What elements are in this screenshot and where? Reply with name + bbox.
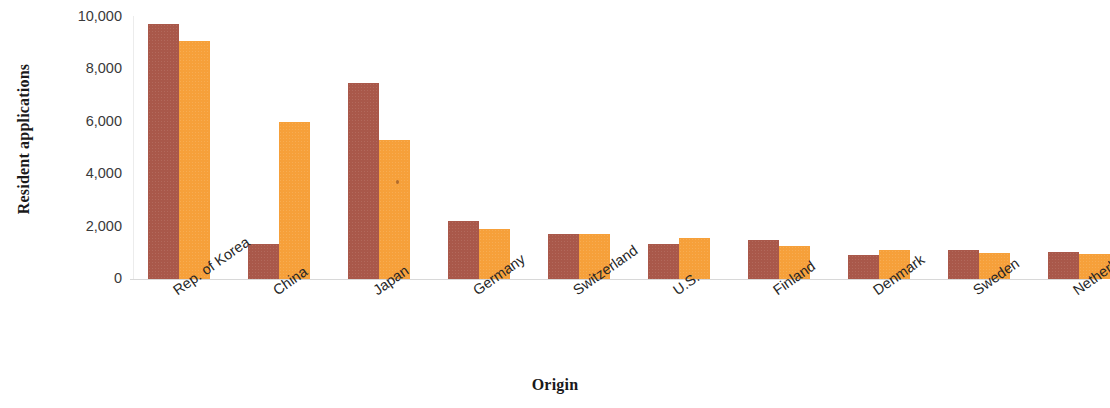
bar — [279, 122, 310, 279]
bar — [748, 240, 779, 279]
bar-chart: Resident applications 02,0004,0006,0008,… — [0, 0, 1110, 408]
bar — [179, 41, 210, 279]
x-axis-tick-label: Denmark — [870, 285, 879, 298]
bar — [379, 140, 410, 279]
bar — [648, 244, 679, 279]
scan-artifact-speck — [396, 180, 399, 184]
x-axis-tick-label: Finland — [770, 285, 779, 298]
x-axis-title: Origin — [0, 376, 1110, 394]
bar — [248, 244, 279, 279]
bar — [148, 24, 179, 279]
plot-area: 02,0004,0006,0008,00010,000 Rep. of Kore… — [0, 0, 1110, 290]
bar — [1048, 252, 1079, 280]
x-axis-tick-label: Rep. of Korea — [170, 285, 179, 298]
bar — [348, 83, 379, 280]
x-axis-tick-label: U.S. — [670, 285, 679, 298]
x-axis-tick-label: Germany — [470, 285, 479, 298]
x-axis-tick-label: Sweden — [970, 285, 979, 298]
bars-layer — [0, 0, 1110, 279]
bar — [448, 221, 479, 279]
x-axis-tick-labels: Rep. of KoreaChinaJapanGermanySwitzerlan… — [0, 279, 1110, 379]
bar — [548, 234, 579, 279]
x-axis-tick-label: Netherlands — [1070, 285, 1079, 298]
bar — [948, 250, 979, 279]
bar — [848, 255, 879, 279]
x-axis-tick-label: Japan — [370, 285, 379, 298]
x-axis-tick-label: China — [270, 285, 279, 298]
x-axis-tick-label: Switzerland — [570, 285, 579, 298]
